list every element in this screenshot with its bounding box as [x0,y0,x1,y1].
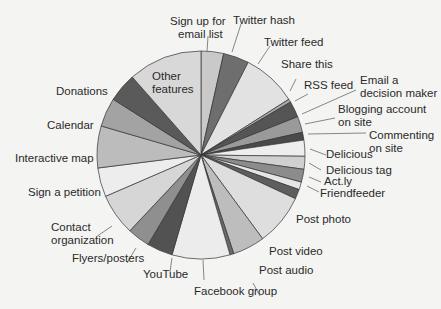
label-contact-2: organization [51,234,114,246]
label-calendar: Calendar [47,119,94,131]
label-actly: Act.ly [324,175,352,187]
label-friendfeeder: Friendfeeder [320,187,385,199]
label-twitter-feed: Twitter feed [264,36,323,48]
label-flyers: Flyers/posters [72,252,144,264]
label-youtube: YouTube [143,268,188,280]
label-post-photo: Post photo [296,213,351,225]
label-facebook-group: Facebook group [194,285,277,297]
label-rss-feed: RSS feed [304,79,353,91]
pie-chart: Sign up for email list Twitter hash Twit… [0,0,441,309]
label-commenting-2: on site [369,142,403,154]
label-blogging: Blogging account [338,103,427,115]
label-contact: Contact [51,221,91,233]
label-email: Email a [360,74,399,86]
pie-slices [97,51,305,259]
label-post-audio: Post audio [259,264,313,276]
label-email-2: decision maker [360,87,438,99]
label-delicious: Delicious [326,148,373,160]
label-interactive-map: Interactive map [15,152,94,164]
label-sign-up: Sign up for [170,15,226,27]
label-other-features: Other [152,70,181,82]
label-commenting: Commenting [369,129,434,141]
label-post-video: Post video [269,245,323,257]
label-twitter-hash: Twitter hash [233,14,295,26]
label-petition: Sign a petition [28,186,101,198]
label-blogging-2: on site [338,116,372,128]
label-share-this: Share this [281,58,333,70]
label-other-features-2: features [152,83,194,95]
label-sign-up-2: email list [178,28,224,40]
label-donations: Donations [56,85,108,97]
